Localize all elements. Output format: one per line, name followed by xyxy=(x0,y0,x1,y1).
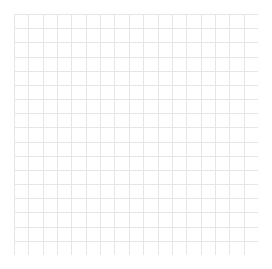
canvas-root xyxy=(0,0,272,269)
grid-surface[interactable] xyxy=(14,14,258,255)
grid-lines xyxy=(14,14,258,255)
